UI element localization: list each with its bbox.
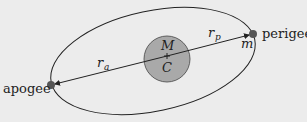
r-apogee-subscript: a bbox=[104, 62, 109, 72]
r-perigee-subscript: p bbox=[215, 32, 221, 42]
center-label: C bbox=[162, 60, 172, 75]
orbiting-mass-label: m bbox=[241, 36, 253, 51]
orbit-svg: perigee apogee M C m r a r p bbox=[0, 0, 307, 122]
r-apogee-label: r bbox=[97, 55, 104, 70]
central-mass-label: M bbox=[160, 38, 175, 53]
perigee-label: perigee bbox=[262, 26, 307, 41]
orbit-diagram: perigee apogee M C m r a r p bbox=[0, 0, 307, 122]
apogee-label: apogee bbox=[3, 81, 51, 96]
r-perigee-label: r bbox=[208, 25, 215, 40]
